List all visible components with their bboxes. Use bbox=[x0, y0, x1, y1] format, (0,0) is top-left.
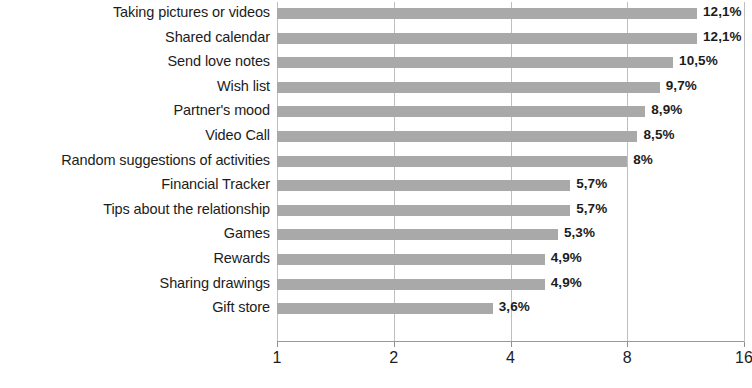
x-axis-tick-label: 1 bbox=[273, 349, 282, 367]
category-label: Tips about the relationship bbox=[0, 201, 270, 217]
category-label: Partner's mood bbox=[0, 102, 270, 118]
bar bbox=[277, 82, 660, 93]
bar-value-label: 9,7% bbox=[666, 78, 697, 93]
category-label: Taking pictures or videos bbox=[0, 4, 270, 20]
bar-row: 8% bbox=[277, 150, 744, 175]
category-label: Video Call bbox=[0, 127, 270, 143]
category-label: Wish list bbox=[0, 78, 270, 94]
bar bbox=[277, 279, 545, 290]
bar-row: 4,9% bbox=[277, 273, 744, 298]
bar-value-label: 8% bbox=[633, 152, 653, 167]
bar-value-label: 3,6% bbox=[499, 299, 530, 314]
category-label: Games bbox=[0, 225, 270, 241]
bar-row: 10,5% bbox=[277, 51, 744, 76]
bar-row: 5,7% bbox=[277, 199, 744, 224]
x-axis-tick-label: 4 bbox=[506, 349, 515, 367]
bar-chart: Taking pictures or videosShared calendar… bbox=[0, 0, 752, 388]
x-axis-tick bbox=[277, 342, 278, 347]
bar-value-label: 4,9% bbox=[551, 275, 582, 290]
bar-row: 8,9% bbox=[277, 100, 744, 125]
bar bbox=[277, 57, 673, 68]
bar-value-label: 8,5% bbox=[643, 127, 674, 142]
x-axis-tick-label: 2 bbox=[389, 349, 398, 367]
bar-value-label: 5,3% bbox=[564, 225, 595, 240]
x-axis-tick bbox=[511, 342, 512, 347]
bar-row: 8,5% bbox=[277, 125, 744, 150]
category-label: Sharing drawings bbox=[0, 275, 270, 291]
category-label: Rewards bbox=[0, 250, 270, 266]
bar-row: 5,7% bbox=[277, 174, 744, 199]
bar-row: 9,7% bbox=[277, 76, 744, 101]
bar-value-label: 5,7% bbox=[576, 201, 607, 216]
bar bbox=[277, 254, 545, 265]
bar bbox=[277, 156, 627, 167]
x-axis-tick bbox=[744, 342, 745, 347]
bar-value-label: 8,9% bbox=[651, 102, 682, 117]
bar-row: 4,9% bbox=[277, 248, 744, 273]
bar-row: 5,3% bbox=[277, 223, 744, 248]
bar bbox=[277, 229, 558, 240]
bar-value-label: 12,1% bbox=[703, 29, 742, 44]
bar-value-label: 5,7% bbox=[576, 176, 607, 191]
category-label: Shared calendar bbox=[0, 29, 270, 45]
x-axis-tick bbox=[394, 342, 395, 347]
bar bbox=[277, 180, 570, 191]
bar bbox=[277, 303, 493, 314]
bar bbox=[277, 8, 697, 19]
bar bbox=[277, 131, 637, 142]
category-label: Gift store bbox=[0, 299, 270, 315]
x-axis-tick-label: 8 bbox=[623, 349, 632, 367]
plot-area: 12,1%12,1%10,5%9,7%8,9%8,5%8%5,7%5,7%5,3… bbox=[277, 2, 744, 342]
category-label: Random suggestions of activities bbox=[0, 152, 270, 168]
bar-value-label: 12,1% bbox=[703, 4, 742, 19]
bar-row: 12,1% bbox=[277, 27, 744, 52]
gridline bbox=[744, 2, 745, 342]
x-axis-tick-label: 16 bbox=[735, 349, 752, 367]
bar bbox=[277, 33, 697, 44]
category-label: Financial Tracker bbox=[0, 176, 270, 192]
bar-row: 12,1% bbox=[277, 2, 744, 27]
bar-value-label: 10,5% bbox=[679, 53, 718, 68]
category-label: Send love notes bbox=[0, 53, 270, 69]
bar bbox=[277, 205, 570, 216]
bar bbox=[277, 106, 645, 117]
x-axis-tick-labels: 124816 bbox=[277, 349, 744, 377]
bar-row: 3,6% bbox=[277, 297, 744, 322]
bar-value-label: 4,9% bbox=[551, 250, 582, 265]
x-axis-tick bbox=[627, 342, 628, 347]
category-axis-labels: Taking pictures or videosShared calendar… bbox=[0, 2, 270, 342]
